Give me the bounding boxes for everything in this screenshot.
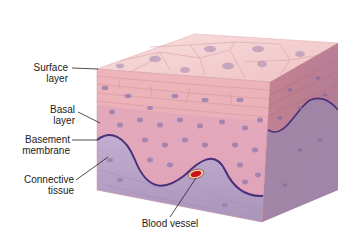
label-blood-vessel: Blood vessel	[125, 218, 215, 229]
label-connective-tissue: Connective tissue	[10, 174, 74, 196]
label-surface-layer: Surface layer	[20, 62, 68, 84]
front-face	[95, 60, 275, 230]
label-basement-membrane: Basement membrane	[10, 134, 70, 156]
label-basal-layer: Basal layer	[20, 104, 75, 126]
